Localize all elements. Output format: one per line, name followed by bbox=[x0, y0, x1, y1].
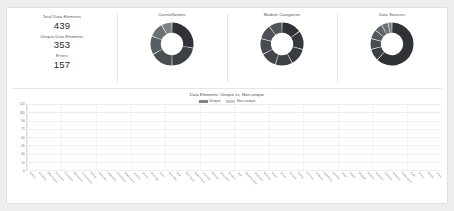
vertical-gridline bbox=[61, 104, 62, 170]
donut-panel-module-categories: Module Categories bbox=[227, 8, 337, 88]
legend-label: Unique bbox=[209, 100, 220, 104]
vertical-gridline bbox=[372, 104, 373, 170]
vertical-gridline bbox=[27, 104, 28, 170]
kpi-value: 157 bbox=[54, 60, 70, 70]
donut-chart-constellations[interactable] bbox=[149, 21, 195, 67]
vertical-gridline bbox=[303, 104, 304, 170]
y-axis-tick-label: 75 bbox=[21, 128, 24, 131]
legend-item-non-unique[interactable]: Non-unique bbox=[226, 100, 255, 104]
legend-label: Non-unique bbox=[237, 100, 256, 104]
y-axis-tick-label: 90 bbox=[21, 119, 24, 122]
x-axis-tick-label: Group bbox=[279, 172, 286, 179]
y-axis-tick-label: 60 bbox=[21, 136, 24, 139]
x-axis-tick-label: Binary bbox=[417, 172, 424, 179]
dashboard-page: Total Data Elements 439 Unique Data Elem… bbox=[0, 0, 454, 211]
vertical-gridline bbox=[200, 104, 201, 170]
vertical-gridline bbox=[338, 104, 339, 170]
x-axis-tick-label: Claim bbox=[158, 172, 164, 179]
kpi-label: Unique Data Elements bbox=[41, 35, 84, 39]
bar-chart-legend: Unique Non-unique bbox=[13, 100, 441, 104]
donut-chart-module-categories[interactable] bbox=[259, 21, 305, 67]
dashboard-card: Total Data Elements 439 Unique Data Elem… bbox=[6, 7, 448, 204]
vertical-gridline bbox=[131, 104, 132, 170]
kpi-errors: Errors 157 bbox=[54, 54, 70, 69]
kpi-total-data-elements: Total Data Elements 439 bbox=[43, 15, 82, 30]
y-axis-tick-label: 0 bbox=[23, 170, 25, 173]
y-axis-tick-label: 120 bbox=[20, 103, 25, 106]
donut-title: Module Categories bbox=[264, 13, 300, 17]
x-axis-tick-label: Goal bbox=[175, 172, 181, 178]
x-axis-tick-label: Request bbox=[357, 172, 365, 181]
x-axis-tick-label: Bundle bbox=[426, 172, 433, 180]
donut-segment[interactable] bbox=[172, 23, 193, 48]
y-axis-tick-label: 105 bbox=[20, 111, 25, 114]
kpi-label: Errors bbox=[54, 54, 70, 58]
kpi-label: Total Data Elements bbox=[43, 15, 82, 19]
x-axis-tick-label: Device bbox=[141, 172, 148, 180]
kpi-panel: Total Data Elements 439 Unique Data Elem… bbox=[7, 8, 117, 88]
vertical-gridline bbox=[407, 104, 408, 170]
kpi-value: 439 bbox=[43, 21, 82, 31]
vertical-gridline bbox=[269, 104, 270, 170]
summary-row: Total Data Elements 439 Unique Data Elem… bbox=[7, 8, 447, 88]
donut-segment[interactable] bbox=[172, 46, 193, 65]
bar-chart-title: Data Elements: Unique vs. Non-unique bbox=[13, 93, 441, 97]
legend-swatch-non-unique bbox=[226, 100, 235, 103]
x-axis-tick-label: Audit bbox=[409, 172, 415, 178]
y-axis: 0153045607590105120 bbox=[13, 104, 26, 171]
donut-panel-data-sources: Data Sources bbox=[337, 8, 447, 88]
donut-title: Data Sources bbox=[379, 13, 405, 17]
donut-title: Constellations bbox=[158, 13, 185, 17]
x-axis-labels: PatientConditionObservationEncounterProc… bbox=[26, 171, 441, 201]
vertical-gridline bbox=[96, 104, 97, 170]
y-axis-tick-label: 30 bbox=[21, 153, 24, 156]
plot-area: 0153045607590105120 bbox=[13, 104, 441, 171]
vertical-gridline bbox=[165, 104, 166, 170]
donut-chart-data-sources[interactable] bbox=[369, 21, 415, 67]
x-axis-tick-label: Supply bbox=[348, 172, 355, 180]
x-axis-tick-label: Contract bbox=[305, 172, 313, 181]
plot bbox=[26, 104, 441, 171]
x-axis-tick-label: Delivery bbox=[366, 172, 374, 181]
vertical-gridline bbox=[234, 104, 235, 170]
x-axis-tick-label: Linkage bbox=[435, 172, 441, 180]
legend-swatch-unique bbox=[199, 100, 208, 103]
x-axis-tick-label: Vision bbox=[340, 172, 347, 179]
kpi-unique-data-elements: Unique Data Elements 353 bbox=[41, 35, 84, 50]
kpi-value: 353 bbox=[41, 40, 84, 50]
bar-chart-section: Data Elements: Unique vs. Non-unique Uni… bbox=[7, 89, 447, 203]
y-axis-tick-label: 15 bbox=[21, 161, 24, 164]
x-axis-tick-label: Task bbox=[236, 172, 242, 178]
legend-item-unique[interactable]: Unique bbox=[199, 100, 221, 104]
y-axis-tick-label: 45 bbox=[21, 144, 24, 147]
x-axis-tick-label: Patient bbox=[28, 172, 35, 180]
x-axis-tick-label: Invoice bbox=[296, 172, 303, 180]
donut-panel-constellations: Constellations bbox=[117, 8, 227, 88]
